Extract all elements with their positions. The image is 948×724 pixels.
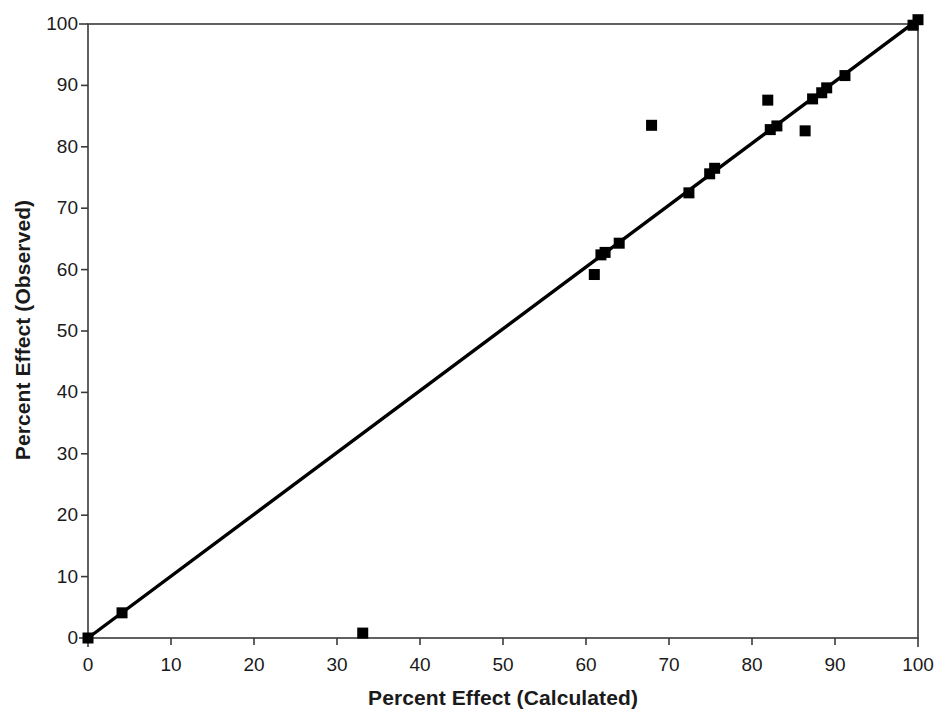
- data-point-marker: [839, 70, 850, 81]
- identity-reference-line: [88, 20, 918, 638]
- data-point-marker: [600, 247, 611, 258]
- data-point-marker: [83, 633, 94, 644]
- data-point-marker: [762, 95, 773, 106]
- data-point-marker: [913, 14, 924, 25]
- data-point-marker: [683, 187, 694, 198]
- chart-figure: Percent Effect (Observed) 01020304050607…: [0, 0, 948, 724]
- data-point-marker: [800, 125, 811, 136]
- data-point-marker: [646, 120, 657, 131]
- data-point-marker: [589, 269, 600, 280]
- data-point-marker: [117, 607, 128, 618]
- data-point-marker: [821, 82, 832, 93]
- data-point-marker: [709, 163, 720, 174]
- scatter-plot-canvas: [0, 0, 948, 724]
- data-point-marker: [614, 238, 625, 249]
- data-point-marker: [771, 120, 782, 131]
- data-point-marker: [357, 628, 368, 639]
